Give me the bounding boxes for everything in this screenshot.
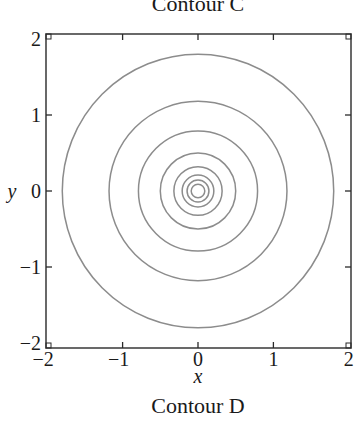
corner-markers bbox=[46, 34, 351, 348]
y-axis-label: y bbox=[6, 180, 17, 203]
x-axis-label: x bbox=[193, 365, 203, 387]
y-tick-labels: −2−1012 bbox=[20, 28, 41, 354]
y-tick-label: 1 bbox=[31, 104, 41, 126]
contour-line bbox=[191, 184, 205, 198]
chart-title-top: Contour C bbox=[152, 0, 244, 16]
contour-chart: Contour C −2−1012 −2−1012 x y Contour D bbox=[0, 0, 356, 431]
y-tick-label: 0 bbox=[31, 180, 41, 202]
x-tick-label: 1 bbox=[268, 348, 278, 370]
contour-line bbox=[187, 180, 209, 202]
corner-marker bbox=[46, 34, 51, 39]
contour-lines bbox=[62, 54, 333, 328]
y-tick-label: −1 bbox=[20, 256, 41, 278]
corner-marker bbox=[346, 34, 351, 39]
contour-line bbox=[62, 54, 333, 328]
contour-line bbox=[174, 167, 222, 216]
x-tick-label: −1 bbox=[108, 348, 129, 370]
y-tick-label: −2 bbox=[20, 332, 41, 354]
contour-line bbox=[138, 131, 257, 251]
contour-line bbox=[160, 153, 235, 229]
plot-frame bbox=[46, 34, 351, 348]
contour-line bbox=[109, 101, 287, 280]
y-tick-label: 2 bbox=[31, 28, 41, 50]
axis-ticks bbox=[46, 34, 351, 348]
x-tick-label: 2 bbox=[344, 348, 354, 370]
chart-title: Contour D bbox=[151, 393, 245, 418]
